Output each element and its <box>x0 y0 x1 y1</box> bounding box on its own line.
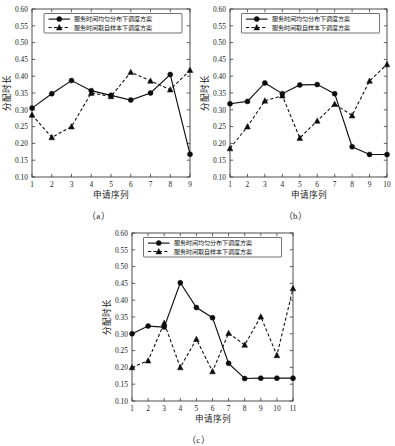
circle-marker <box>49 91 54 96</box>
x-tick-label: 1 <box>30 180 34 189</box>
y-tick-label: 0.55 <box>15 22 28 31</box>
circle-marker <box>130 331 135 336</box>
series-line-1 <box>132 283 293 379</box>
y-tick-label: 0.40 <box>15 72 28 81</box>
circle-marker <box>146 324 151 329</box>
y-tick-label: 0.40 <box>213 72 226 81</box>
x-tick-label: 2 <box>146 404 150 413</box>
series-line-1 <box>32 75 190 155</box>
y-axis-title: 分配时长 <box>199 75 210 111</box>
series-line-2 <box>132 288 293 371</box>
triangle-marker <box>145 358 151 363</box>
x-tick-label: 2 <box>246 180 250 189</box>
triangle-marker <box>332 101 338 106</box>
circle-marker <box>332 91 337 96</box>
circle-marker <box>385 152 390 157</box>
chart-legend: 服务时间均匀分布下调度方案服务时间取自样本下调度方案 <box>44 14 182 34</box>
circle-marker <box>148 91 153 96</box>
x-tick-label: 8 <box>350 180 354 189</box>
x-tick-label: 6 <box>211 404 215 413</box>
chart-panel-a: 0.100.150.200.250.300.350.400.450.500.55… <box>0 0 197 222</box>
triangle-marker <box>194 336 200 341</box>
x-tick-label: 5 <box>109 180 113 189</box>
chart-panel-c-inner: 0.100.150.200.250.300.350.400.450.500.55… <box>92 224 305 446</box>
x-tick-label: 9 <box>259 404 263 413</box>
legend-entry-uniform-label: 服务时间均匀分布下调度方案 <box>174 239 252 247</box>
triangle-marker <box>258 314 264 319</box>
triangle-marker <box>29 112 35 117</box>
legend-entry-uniform-label: 服务时间均匀分布下调度方案 <box>272 15 350 23</box>
x-axis-title: 申请序列 <box>291 189 327 200</box>
x-tick-label: 6 <box>315 180 319 189</box>
x-tick-label: 7 <box>149 180 153 189</box>
series-line-2 <box>32 70 190 137</box>
y-tick-label: 0.50 <box>115 262 128 271</box>
circle-marker <box>57 17 62 22</box>
chart-panel-b: 0.100.150.200.250.300.350.400.450.500.55… <box>196 0 395 222</box>
x-tick-label: 5 <box>195 404 199 413</box>
circle-marker <box>350 144 355 149</box>
circle-marker <box>168 72 173 77</box>
y-tick-label: 0.45 <box>15 55 28 64</box>
triangle-marker <box>128 69 134 74</box>
circle-marker <box>156 241 161 246</box>
triangle-marker <box>177 364 183 369</box>
triangle-marker <box>245 124 251 129</box>
y-tick-label: 0.10 <box>213 173 226 182</box>
circle-marker <box>228 101 233 106</box>
x-tick-label: 3 <box>70 180 74 189</box>
legend-entry-sample-label: 服务时间取自样本下调度方案 <box>174 248 252 256</box>
y-tick-label: 0.60 <box>213 5 226 14</box>
y-tick-label: 0.30 <box>15 106 28 115</box>
x-tick-label: 1 <box>130 404 134 413</box>
figure-root: 0.100.150.200.250.300.350.400.450.500.55… <box>0 0 395 446</box>
x-tick-label: 2 <box>50 180 54 189</box>
chart-panel-b-inner: 0.100.150.200.250.300.350.400.450.500.55… <box>196 0 395 222</box>
chart-panel-a-inner: 0.100.150.200.250.300.350.400.450.500.55… <box>0 0 197 222</box>
legend-entry-sample-label: 服务时间取自样本下调度方案 <box>74 24 152 32</box>
x-tick-label: 7 <box>227 404 231 413</box>
y-tick-label: 0.15 <box>15 156 28 165</box>
x-axis-title: 申请序列 <box>195 413 231 424</box>
x-tick-label: 4 <box>178 404 182 413</box>
y-tick-label: 0.20 <box>213 139 226 148</box>
y-tick-label: 0.15 <box>115 380 128 389</box>
circle-marker <box>128 98 133 103</box>
x-tick-label: 4 <box>280 180 284 189</box>
legend-entry-sample-label: 服务时间取自样本下调度方案 <box>272 24 350 32</box>
circle-marker <box>188 152 193 157</box>
triangle-marker <box>242 342 248 347</box>
triangle-marker <box>49 134 55 139</box>
chart-panel-c: 0.100.150.200.250.300.350.400.450.500.55… <box>92 224 305 446</box>
x-tick-label: 1 <box>228 180 232 189</box>
y-tick-label: 0.10 <box>15 173 28 182</box>
x-tick-label: 10 <box>383 180 391 189</box>
y-tick-label: 0.60 <box>15 5 28 14</box>
triangle-marker <box>314 118 320 123</box>
circle-marker <box>291 376 296 381</box>
circle-marker <box>242 376 247 381</box>
y-tick-label: 0.35 <box>115 313 128 322</box>
x-tick-label: 8 <box>243 404 247 413</box>
y-tick-label: 0.45 <box>213 55 226 64</box>
circle-marker <box>297 82 302 87</box>
triangle-marker <box>349 113 355 118</box>
circle-marker <box>30 106 35 111</box>
x-tick-label: 10 <box>273 404 281 413</box>
legend-entry-uniform-label: 服务时间均匀分布下调度方案 <box>74 15 152 23</box>
triangle-marker <box>69 124 75 129</box>
y-tick-label: 0.35 <box>213 89 226 98</box>
x-tick-label: 9 <box>188 180 192 189</box>
circle-marker <box>226 361 231 366</box>
triangle-marker <box>274 352 280 357</box>
circle-marker <box>254 17 259 22</box>
y-tick-label: 0.35 <box>15 89 28 98</box>
circle-marker <box>367 152 372 157</box>
x-tick-label: 3 <box>263 180 267 189</box>
x-tick-label: 9 <box>368 180 372 189</box>
x-tick-label: 5 <box>298 180 302 189</box>
y-tick-label: 0.55 <box>115 246 128 255</box>
x-tick-label: 6 <box>129 180 133 189</box>
x-tick-label: 8 <box>168 180 172 189</box>
y-tick-label: 0.30 <box>115 330 128 339</box>
